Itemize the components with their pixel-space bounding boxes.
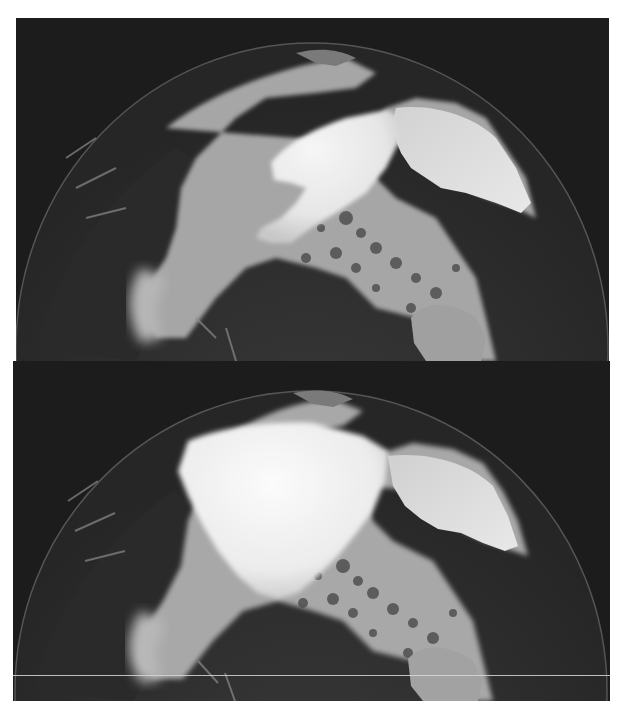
arctic-sea-ice-figure — [0, 0, 619, 724]
globe-render-bottom — [13, 361, 610, 701]
panel-top-globe — [16, 18, 609, 361]
globe-render-top — [16, 18, 609, 361]
panel-bottom-globe — [13, 361, 610, 701]
scan-line-artifact — [13, 675, 610, 676]
